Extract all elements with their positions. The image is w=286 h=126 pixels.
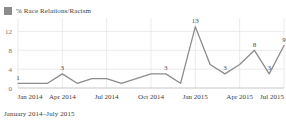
y-axis-tick-label: 12 (5, 28, 13, 36)
x-axis-tick-label: Oct 2014 (138, 93, 164, 102)
data-point-label: 3 (267, 64, 271, 72)
data-point-label: 8 (253, 41, 257, 49)
plot-area: 04812 133133839 (0, 18, 286, 92)
x-axis-tick-label: Apr 2014 (49, 93, 76, 102)
y-axis-tick-labels: 04812 (5, 28, 13, 92)
data-point-label: 3 (223, 64, 227, 72)
data-point-label: 9 (282, 36, 286, 44)
x-axis-tick-label: Jan 2014 (17, 93, 42, 102)
data-point-label: 1 (16, 74, 20, 82)
x-axis-tick-label: Jan 2015 (183, 93, 208, 102)
chart-figure: % Race Relations/Racism 04812 133133839 … (0, 0, 286, 126)
legend-label: % Race Relations/Racism (16, 7, 91, 15)
legend-square-icon (4, 7, 12, 15)
data-point-label: 3 (61, 64, 65, 72)
vertical-gridlines (18, 18, 284, 88)
y-axis-tick-label: 8 (9, 47, 13, 55)
x-axis-tick-labels: Jan 2014Apr 2014Jul 2014Oct 2014Jan 2015… (0, 93, 286, 105)
data-point-label: 13 (192, 18, 200, 25)
data-point-label: 3 (164, 64, 168, 72)
chart-caption: January 2014–July 2015 (4, 110, 75, 119)
line-chart-svg: 04812 133133839 (0, 18, 286, 92)
y-axis-tick-label: 4 (9, 66, 13, 74)
x-axis-tick-label: Apr 2015 (226, 93, 253, 102)
chart-legend: % Race Relations/Racism (4, 5, 91, 16)
x-axis-tick-label: Jul 2015 (260, 93, 284, 102)
y-axis-tick-label: 0 (9, 85, 13, 93)
x-axis-tick-label: Jul 2014 (95, 93, 119, 102)
